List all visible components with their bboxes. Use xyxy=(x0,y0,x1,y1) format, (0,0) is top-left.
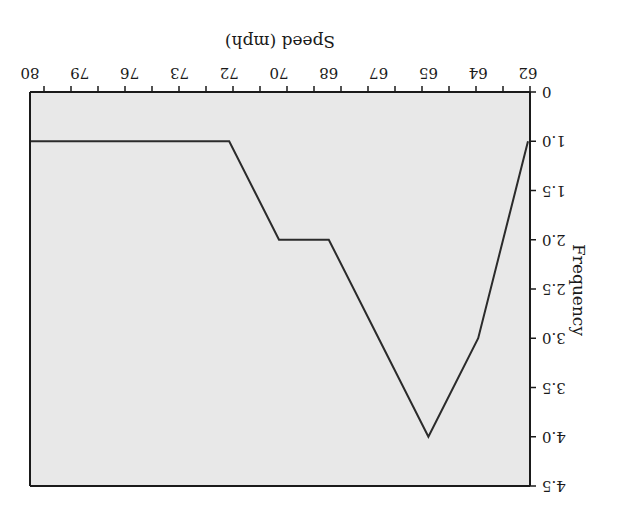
y-axis-title: Frequency xyxy=(569,244,589,336)
x-tick-label: 65 xyxy=(419,64,438,82)
y-tick-label: 3.0 xyxy=(542,329,566,347)
x-tick-label: 62 xyxy=(518,64,537,82)
x-tick-label: 67 xyxy=(369,64,388,82)
x-tick-label: 72 xyxy=(220,64,239,82)
x-tick-labels: 6264656768707273767980 xyxy=(20,64,537,82)
x-tick-label: 80 xyxy=(20,64,39,82)
x-tick-label: 70 xyxy=(269,64,288,82)
plot-area xyxy=(30,92,530,486)
x-tick-label: 79 xyxy=(70,64,89,82)
y-tick-label: 2.5 xyxy=(542,280,566,298)
y-tick-label: 1.0 xyxy=(542,132,566,150)
y-tick-labels: 01.01.52.02.53.03.54.04.5 xyxy=(542,83,566,495)
y-tick-label: 4.0 xyxy=(542,428,566,446)
x-axis-title: Speed (mph) xyxy=(225,32,335,52)
y-tick-label: 1.5 xyxy=(542,182,566,200)
y-tick-label: 3.5 xyxy=(542,379,566,397)
y-tick-label: 2.0 xyxy=(542,231,566,249)
x-tick-label: 73 xyxy=(170,64,189,82)
x-tick-label: 76 xyxy=(120,64,139,82)
x-tick-label: 68 xyxy=(319,64,338,82)
chart-figure: 6264656768707273767980 01.01.52.02.53.03… xyxy=(0,0,621,523)
line-chart: 6264656768707273767980 01.01.52.02.53.03… xyxy=(0,0,621,523)
y-tick-label: 4.5 xyxy=(542,477,566,495)
x-tick-label: 64 xyxy=(469,64,488,82)
y-tick-label: 0 xyxy=(542,83,552,101)
